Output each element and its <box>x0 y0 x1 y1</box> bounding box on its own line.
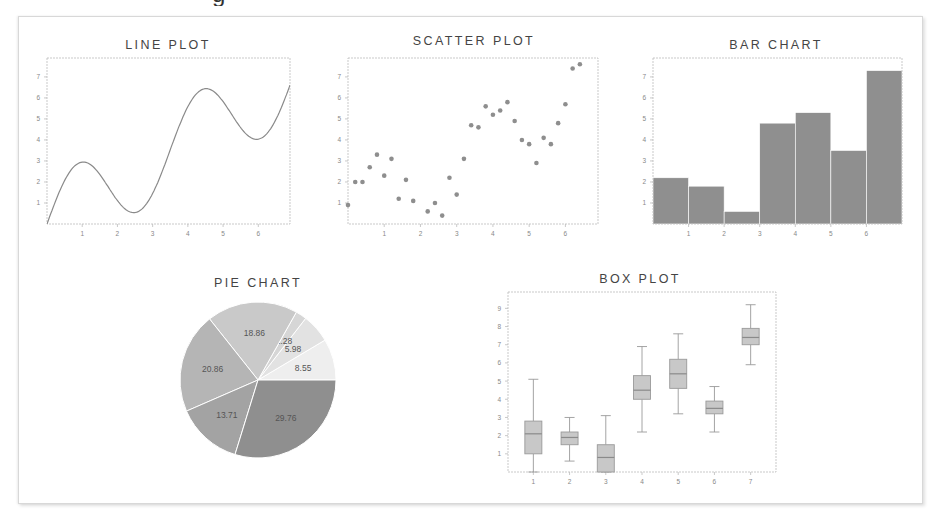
y-tick-label: 3 <box>337 157 341 164</box>
box-body <box>525 421 542 454</box>
pie-chart-panel: PIE CHART 8.555.982.2818.8620.8613.7129.… <box>180 276 336 458</box>
y-tick-label: 5 <box>36 115 40 122</box>
y-tick-label: 8 <box>497 323 501 330</box>
bar <box>760 123 796 224</box>
y-tick-label: 3 <box>497 414 501 421</box>
bar <box>724 211 760 224</box>
x-tick-label: 1 <box>80 230 84 237</box>
y-tick-label: 2 <box>36 178 40 185</box>
y-tick-label: 4 <box>642 136 646 143</box>
bar <box>689 186 725 224</box>
scatter-point <box>353 180 358 185</box>
y-tick-label: 6 <box>497 359 501 366</box>
x-tick-label: 5 <box>221 230 225 237</box>
box-body <box>742 328 759 344</box>
box-plot-panel: BOX PLOT 1234567123456789 <box>497 272 776 485</box>
y-tick-label: 4 <box>337 136 341 143</box>
plot-frame <box>47 58 290 224</box>
scatter-point <box>563 102 568 107</box>
scatter-point <box>389 157 394 162</box>
y-tick-label: 7 <box>36 73 40 80</box>
scatter-point <box>498 108 503 113</box>
scatter-point <box>425 209 430 214</box>
box-body <box>597 445 614 472</box>
box-body <box>706 401 723 414</box>
scatter-point <box>440 213 445 218</box>
y-tick-label: 9 <box>497 305 501 312</box>
line-plot-panel: LINE PLOT 1234561234567 <box>36 38 290 237</box>
bar <box>831 150 867 224</box>
y-tick-label: 7 <box>497 341 501 348</box>
scatter-point <box>512 119 517 124</box>
scatter-point <box>447 175 452 180</box>
scatter-point <box>578 62 583 67</box>
y-tick-label: 6 <box>337 94 341 101</box>
scatter-plot-panel: SCATTER PLOT 1234561234567 <box>337 34 598 237</box>
y-tick-label: 7 <box>642 73 646 80</box>
scatter-point <box>382 173 387 178</box>
scatter-point <box>570 66 575 71</box>
scatter-point <box>541 136 546 141</box>
box-body <box>561 432 578 445</box>
bar <box>653 178 689 224</box>
x-tick-label: 1 <box>687 230 691 237</box>
scatter-point <box>534 161 539 166</box>
y-tick-label: 2 <box>642 178 646 185</box>
bar-chart-panel: BAR CHART 1234561234567 <box>642 38 902 237</box>
x-tick-label: 6 <box>865 230 869 237</box>
x-tick-label: 4 <box>793 230 797 237</box>
line-series <box>47 85 290 224</box>
pie-slice-label: 29.76 <box>275 413 297 423</box>
bar <box>795 113 831 224</box>
x-tick-label: 6 <box>713 478 717 485</box>
y-tick-label: 1 <box>337 199 341 206</box>
y-tick-label: 6 <box>642 94 646 101</box>
x-tick-label: 3 <box>455 230 459 237</box>
box-body <box>634 376 651 400</box>
y-tick-label: 4 <box>497 396 501 403</box>
scatter-point <box>505 100 510 105</box>
scatter-point <box>476 125 481 130</box>
x-tick-label: 3 <box>151 230 155 237</box>
y-tick-label: 5 <box>642 115 646 122</box>
scatter-point <box>411 199 416 204</box>
scatter-point <box>491 112 496 117</box>
x-tick-label: 2 <box>722 230 726 237</box>
scatter-point <box>367 165 372 170</box>
y-tick-label: 7 <box>337 73 341 80</box>
x-tick-label: 7 <box>749 478 753 485</box>
scatter-point <box>375 152 380 157</box>
scatter-point <box>483 104 488 109</box>
y-tick-label: 5 <box>337 115 341 122</box>
line-plot-title: LINE PLOT <box>125 38 211 52</box>
pie-chart-title: PIE CHART <box>214 276 302 290</box>
pie-slice-label: 20.86 <box>202 364 224 374</box>
x-tick-label: 6 <box>256 230 260 237</box>
bar <box>866 71 902 224</box>
scatter-point <box>454 192 459 197</box>
y-tick-label: 1 <box>497 450 501 457</box>
scatter-point <box>404 178 409 183</box>
y-tick-label: 4 <box>36 136 40 143</box>
scatter-point <box>520 138 525 143</box>
scatter-point <box>462 157 467 162</box>
scatter-point <box>396 196 401 201</box>
scatter-point <box>549 142 554 147</box>
scatter-plot-title: SCATTER PLOT <box>413 34 535 48</box>
x-tick-label: 1 <box>532 478 536 485</box>
pie-slice-label: 13.71 <box>216 410 238 420</box>
y-tick-label: 1 <box>36 199 40 206</box>
x-tick-label: 5 <box>527 230 531 237</box>
chart-figure: LINE PLOT 1234561234567 SCATTER PLOT 123… <box>0 0 939 517</box>
plot-frame <box>348 58 598 224</box>
x-tick-label: 2 <box>116 230 120 237</box>
x-tick-label: 2 <box>419 230 423 237</box>
y-tick-label: 2 <box>337 178 341 185</box>
scatter-point <box>469 123 474 128</box>
x-tick-label: 4 <box>186 230 190 237</box>
y-tick-label: 1 <box>642 199 646 206</box>
x-tick-label: 3 <box>604 478 608 485</box>
x-tick-label: 6 <box>564 230 568 237</box>
pie-slice-label: 8.55 <box>295 363 312 373</box>
x-tick-label: 1 <box>382 230 386 237</box>
